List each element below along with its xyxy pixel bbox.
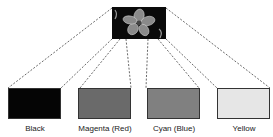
black-label: Black [0,124,75,133]
magenta-label: Magenta (Red) [65,124,145,133]
flower-photo [112,7,166,39]
flower-icon [112,7,166,39]
cyan-label: Cyan (Blue) [134,124,214,133]
black-separation-swatch [8,88,61,119]
magenta-separation-swatch [78,88,131,119]
yellow-label: Yellow [204,124,273,133]
yellow-separation-swatch [217,88,270,119]
cyan-separation-swatch [147,88,200,119]
